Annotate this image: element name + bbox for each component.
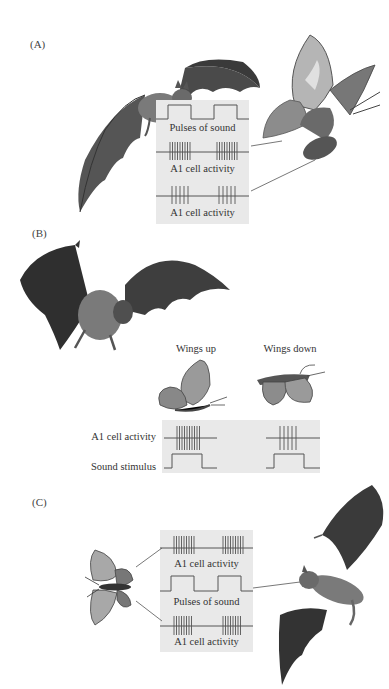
bat-c-illustration-icon: [272, 480, 389, 689]
